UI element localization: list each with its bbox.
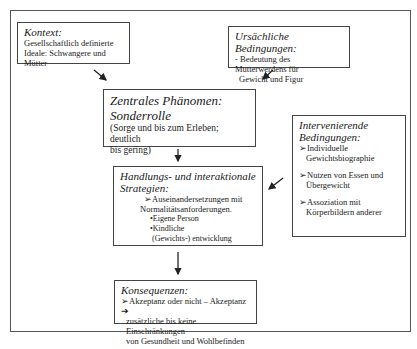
arrow-context-to-central (94, 70, 106, 80)
arrows (0, 0, 417, 349)
arrow-causal-to-central (263, 70, 273, 79)
arrow-intervening-to-strategies (269, 178, 283, 189)
